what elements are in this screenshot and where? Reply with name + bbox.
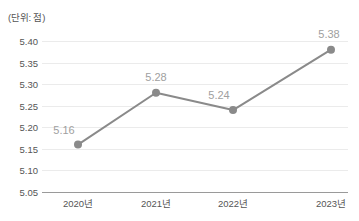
plot-area: 5.165.285.245.38: [42, 41, 348, 192]
x-axis-tick-label: 2022년: [218, 196, 248, 210]
data-point-label: 5.38: [318, 28, 339, 40]
y-axis-tick-label: 5.30: [4, 79, 38, 90]
x-axis-tick-labels: 2020년2021년2022년2023년: [42, 196, 348, 216]
series-polyline: [78, 50, 331, 145]
data-point-label: 5.16: [53, 124, 74, 136]
series-line-2020-2023: [42, 41, 348, 192]
y-axis-tick-labels: 5.405.355.305.255.205.155.105.05: [0, 41, 38, 192]
y-axis-tick-label: 5.40: [4, 36, 38, 47]
x-axis-tick-label: 2021년: [141, 196, 171, 210]
x-axis-tick-label: 2020년: [63, 196, 93, 210]
data-point-marker: [74, 141, 82, 149]
line-chart: (단위: 점) 5.405.355.305.255.205.155.105.05…: [0, 0, 359, 221]
series-markers: [74, 46, 335, 149]
data-point-marker: [152, 89, 160, 97]
y-axis-tick-label: 5.10: [4, 165, 38, 176]
y-axis-tick-label: 5.05: [4, 187, 38, 198]
data-point-label: 5.28: [145, 71, 166, 83]
x-axis-tick-label: 2023년: [316, 196, 346, 210]
data-point-label: 5.24: [208, 89, 229, 101]
y-axis-tick-label: 5.15: [4, 143, 38, 154]
data-point-marker: [327, 46, 335, 54]
data-point-marker: [229, 106, 237, 114]
y-axis-tick-label: 5.20: [4, 122, 38, 133]
y-axis-tick-label: 5.25: [4, 100, 38, 111]
axis-baseline: [42, 192, 348, 193]
y-axis-tick-label: 5.35: [4, 57, 38, 68]
unit-note: (단위: 점): [8, 10, 45, 24]
